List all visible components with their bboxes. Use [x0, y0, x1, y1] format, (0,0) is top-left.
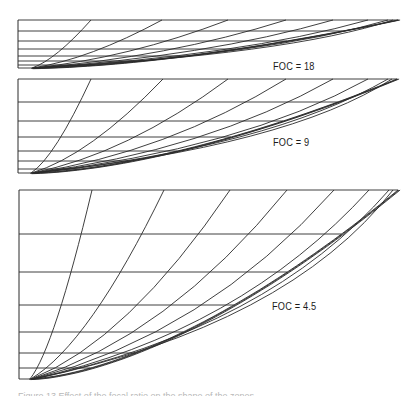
ray-curve	[34, 190, 389, 379]
profile-edge	[32, 79, 400, 174]
ray-curve	[31, 190, 230, 379]
profile-edge	[31, 190, 401, 380]
panel-label-foc-18: FOC = 18	[273, 61, 315, 72]
figure-caption: Figure 13 Effect of the focal ratio on t…	[18, 388, 408, 396]
ray-curve	[32, 190, 287, 379]
profile-edge	[30, 79, 398, 173]
panel-foc-18	[18, 20, 400, 69]
ray-curve	[35, 79, 388, 173]
focal-ratio-diagram	[0, 0, 412, 396]
panel-foc-4-5	[19, 190, 400, 380]
ray-curve	[32, 190, 334, 379]
ray-curve	[33, 79, 286, 173]
panel-label-foc-4-5: FOC = 4.5	[272, 301, 316, 312]
ray-curve	[34, 190, 393, 379]
panel-foc-9	[18, 79, 399, 174]
ray-curve	[33, 79, 333, 173]
panel-label-foc-9: FOC = 9	[273, 137, 309, 148]
ray-curve	[35, 79, 392, 173]
